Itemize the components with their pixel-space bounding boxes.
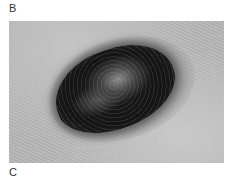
panel-label-c: C xyxy=(9,167,17,176)
panel-label-b: B xyxy=(9,3,16,14)
lesion-photograph xyxy=(9,21,224,163)
